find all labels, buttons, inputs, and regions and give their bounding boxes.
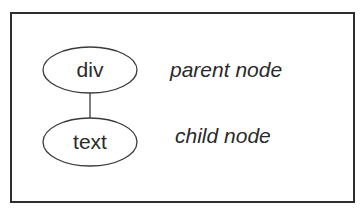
child-node-caption: child node [175,124,271,147]
dom-tree-diagram: div text parent node child node [0,0,361,215]
child-node-label: text [73,130,107,153]
child-node: text [43,118,137,166]
parent-node-caption: parent node [169,58,282,81]
parent-node-label: div [77,58,104,81]
parent-node: div [43,47,137,93]
